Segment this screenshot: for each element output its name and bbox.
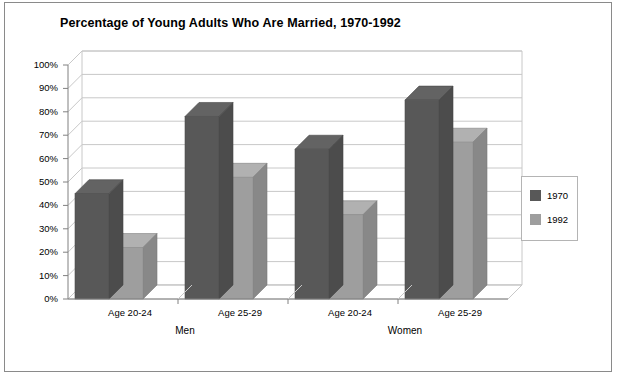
axis-tick-connector	[68, 145, 82, 159]
x-axis-category-label: Age 20-24	[295, 307, 405, 318]
x-axis-category-label: Age 20-24	[75, 307, 185, 318]
y-axis-tick-label: 10%	[14, 270, 58, 281]
axis-tick-connector	[68, 51, 82, 65]
bar-side-face	[439, 86, 453, 299]
bar-front-face	[405, 100, 439, 299]
legend-label: 1970	[547, 190, 568, 201]
legend-item[interactable]: 1970	[530, 190, 568, 201]
y-axis-tick-label: 0%	[14, 293, 58, 304]
x-axis-category-label: Age 25-29	[185, 307, 295, 318]
axis-tick-connector	[68, 168, 82, 182]
bar-front-face	[185, 116, 219, 299]
bar-side-face	[473, 128, 487, 299]
bar-side-face	[363, 201, 377, 299]
bar-1970-1	[75, 180, 123, 299]
y-axis-tick-label: 80%	[14, 106, 58, 117]
bar-1970-3	[295, 135, 343, 299]
chart-legend: 19701992	[521, 176, 578, 241]
legend-color-swatch	[530, 190, 541, 201]
y-axis-tick-label: 20%	[14, 246, 58, 257]
bar-side-face	[329, 135, 343, 299]
bar-side-face	[109, 180, 123, 299]
x-axis-group-label: Women	[295, 325, 515, 336]
bar-front-face	[75, 194, 109, 299]
legend-label: 1992	[547, 214, 568, 225]
y-axis-tick-label: 50%	[14, 176, 58, 187]
axis-tick-connector	[68, 74, 82, 88]
bar-1970-2	[185, 102, 233, 299]
x-axis-group-label: Men	[75, 325, 295, 336]
chart-page: Percentage of Young Adults Who Are Marri…	[0, 0, 618, 377]
axis-tick-connector	[68, 121, 82, 135]
bar-side-face	[253, 163, 267, 299]
y-axis-tick-label: 40%	[14, 199, 58, 210]
bar-front-face	[295, 149, 329, 299]
y-axis-tick-label: 100%	[14, 59, 58, 70]
legend-color-swatch	[530, 214, 541, 225]
y-axis-tick-label: 90%	[14, 82, 58, 93]
bar-side-face	[219, 102, 233, 299]
y-axis-tick-label: 60%	[14, 153, 58, 164]
legend-item[interactable]: 1992	[530, 214, 568, 225]
y-axis-tick-label: 70%	[14, 129, 58, 140]
axis-tick-connector	[68, 98, 82, 112]
bar-1970-4	[405, 86, 453, 299]
x-axis-category-label: Age 25-29	[405, 307, 515, 318]
y-axis-tick-label: 30%	[14, 223, 58, 234]
